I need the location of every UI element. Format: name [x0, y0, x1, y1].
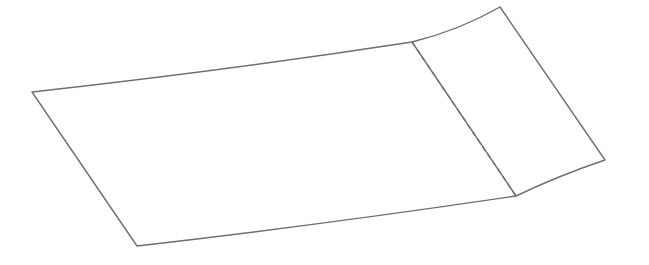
- dashed-fold-line: [412, 42, 516, 196]
- main-panel-outline: [32, 42, 516, 246]
- folded-sheet-diagram: [0, 0, 649, 265]
- flap-panel-outline: [412, 7, 605, 196]
